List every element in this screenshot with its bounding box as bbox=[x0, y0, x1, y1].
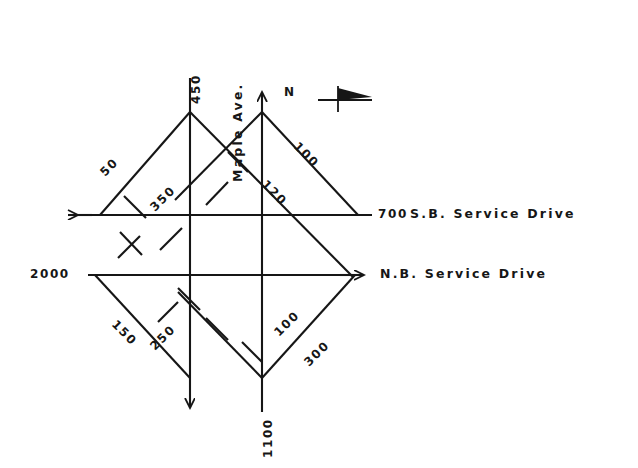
dash-seg-g bbox=[242, 342, 262, 362]
volume-label-2000: 2000 bbox=[30, 268, 70, 280]
dash-seg-a bbox=[206, 182, 228, 205]
street-label-nb-service-drive: N.B. Service Drive bbox=[380, 268, 547, 281]
volume-label-450: 450 bbox=[190, 74, 202, 104]
dash-seg-b bbox=[160, 228, 182, 250]
interchange-geometry bbox=[0, 0, 638, 468]
north-label: N bbox=[284, 86, 294, 98]
dash-seg-f bbox=[206, 318, 228, 340]
volume-label-1100: 1100 bbox=[262, 418, 274, 458]
dash-seg-d bbox=[118, 236, 140, 258]
north-arrow-flag-icon bbox=[318, 86, 372, 112]
volume-label-700: 700 bbox=[378, 208, 408, 220]
interchange-diagram: 450 Maple Ave. 1100 2000 700 S.B. Servic… bbox=[0, 0, 638, 468]
street-label-maple-ave: Maple Ave. bbox=[232, 82, 245, 182]
street-label-sb-service-drive: S.B. Service Drive bbox=[410, 208, 576, 221]
dash-seg-h bbox=[158, 302, 178, 322]
ramp-inner-nw-diagonal bbox=[175, 112, 262, 200]
